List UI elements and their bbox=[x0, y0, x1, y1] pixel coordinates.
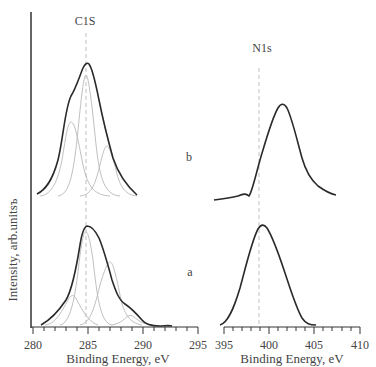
n1s-tick-400: 400 bbox=[260, 338, 278, 352]
curve-label-a: a bbox=[187, 265, 193, 279]
n1s-title: N1s bbox=[252, 41, 272, 55]
c1s-tick-290: 290 bbox=[134, 338, 152, 352]
c1s-a-components bbox=[45, 232, 152, 325]
c1s-b-envelope bbox=[37, 63, 137, 195]
c1s-x-axis bbox=[31, 327, 198, 334]
n1s-tick-395: 395 bbox=[215, 338, 233, 352]
c1s-a-envelope bbox=[41, 226, 172, 326]
n1s-x-axis-label: Binding Energy, eV bbox=[240, 351, 344, 366]
n1s-b-envelope bbox=[214, 104, 336, 200]
n1s-x-axis bbox=[224, 327, 360, 334]
c1s-tick-285: 285 bbox=[79, 338, 97, 352]
c1s-tick-295: 295 bbox=[189, 338, 207, 352]
c1s-x-axis-label: Binding Energy, eV bbox=[66, 351, 170, 366]
n1s-a-envelope bbox=[220, 225, 316, 325]
c1s-title: C1S bbox=[75, 14, 96, 28]
curve-label-b: b bbox=[186, 150, 192, 164]
c1s-tick-280: 280 bbox=[24, 338, 42, 352]
y-axis-label: Intensity, arb.unitsъ bbox=[5, 198, 20, 301]
n1s-tick-410: 410 bbox=[351, 338, 369, 352]
n1s-tick-405: 405 bbox=[305, 338, 323, 352]
xps-chart: Intensity, arb.unitsъ 280 285 290 295 Bi… bbox=[0, 0, 376, 367]
